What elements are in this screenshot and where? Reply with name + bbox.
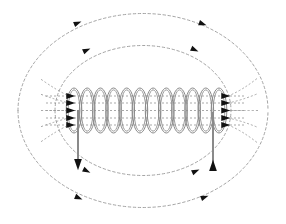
solenoid-field-diagram <box>0 0 286 224</box>
canvas-background <box>0 0 286 224</box>
figure-canvas <box>0 0 286 224</box>
